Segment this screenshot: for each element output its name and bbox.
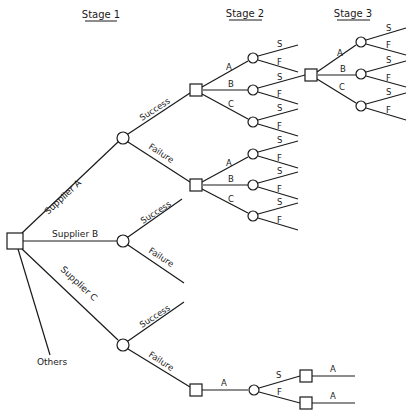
label-c-success: Success (138, 302, 173, 329)
chance-node-supplier-a (117, 132, 129, 144)
edge-s2-a (202, 61, 248, 87)
stage-headers: Stage 1 Stage 2 Stage 3 (82, 8, 372, 21)
root-edges (18, 142, 118, 355)
edge-s2f-a (202, 157, 248, 182)
label-s3-a: A (337, 48, 343, 58)
root-decision-node (7, 233, 23, 249)
label-f: F (277, 57, 282, 67)
supplier-c-failure-path: A S F A A (202, 364, 355, 403)
label-s: S (277, 166, 282, 176)
chance-node (248, 149, 258, 159)
edge-s3-c (317, 79, 356, 103)
stage-3-header: Stage 3 (334, 8, 372, 19)
label-f: F (386, 40, 391, 50)
decision-node (300, 370, 312, 382)
label-s: S (277, 135, 282, 145)
chance-node (356, 101, 366, 111)
label-s: S (386, 23, 391, 33)
label-s3-c: C (339, 82, 345, 92)
label-f: F (277, 89, 282, 99)
label-after-s: A (330, 364, 336, 374)
label-s: S (386, 87, 391, 97)
label-supplier-a: Supplier A (43, 177, 84, 216)
decision-node-a-success (190, 84, 202, 96)
label-s2f-b: B (228, 174, 234, 184)
chance-node (248, 180, 258, 190)
edge-s2f-c (202, 189, 248, 213)
stage-2-header: Stage 2 (226, 8, 264, 19)
chance-node (356, 69, 366, 79)
label-s2-a: A (226, 62, 232, 72)
label-s: S (386, 55, 391, 65)
stage-1-header: Stage 1 (82, 9, 120, 20)
label-a-success: Success (138, 95, 173, 122)
chance-node (248, 211, 258, 221)
edge-c-success (128, 302, 184, 341)
chance-node-supplier-c (117, 339, 129, 351)
label-b-success: Success (139, 198, 174, 225)
label-f: F (386, 105, 391, 115)
label-s2-c: C (228, 99, 234, 109)
label-after-f: A (330, 391, 336, 401)
decision-tree-diagram: Stage 1 Stage 2 Stage 3 Supplier A Suppl… (0, 0, 411, 414)
label-f: F (277, 215, 282, 225)
label-f: F (277, 153, 282, 163)
label-f: F (277, 121, 282, 131)
label-s2f-a: A (226, 158, 232, 168)
label-c-fail-s: S (276, 370, 281, 380)
edge-supplier-c (22, 249, 118, 340)
label-b-failure: Failure (147, 245, 176, 269)
edge-s2-c (202, 94, 248, 119)
label-s: S (277, 103, 282, 113)
label-s: S (277, 39, 282, 49)
chance-node (248, 117, 258, 127)
chance-node-supplier-b (117, 235, 129, 247)
decision-node-a-failure (190, 179, 202, 191)
label-c-fail-a: A (221, 378, 227, 388)
label-s: S (277, 72, 282, 82)
decision-node-c-failure (190, 384, 202, 396)
label-s2f-c: C (228, 194, 234, 204)
label-c-fail-f: F (277, 387, 282, 397)
chance-node (249, 385, 259, 395)
label-supplier-c: Supplier C (59, 264, 100, 303)
label-a-failure: Failure (147, 141, 176, 165)
label-supplier-b: Supplier B (52, 229, 98, 239)
label-s3-b: B (340, 64, 346, 74)
nodes (7, 37, 366, 409)
decision-node (300, 397, 312, 409)
chance-node (248, 53, 258, 63)
decision-node-stage3 (305, 69, 317, 81)
chance-node (356, 37, 366, 47)
label-f: F (277, 184, 282, 194)
edge-others (18, 249, 50, 355)
label-s: S (277, 197, 282, 207)
label-s2-b: B (228, 79, 234, 89)
label-f: F (386, 73, 391, 83)
label-others: Others (37, 357, 68, 367)
chance-node (248, 85, 258, 95)
